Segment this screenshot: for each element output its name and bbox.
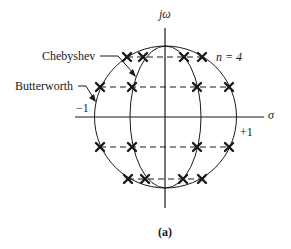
chebyshev-label: Chebyshev xyxy=(42,49,95,63)
jw-axis-label: jω xyxy=(157,7,171,21)
sigma-axis-label: σ xyxy=(268,108,275,122)
pole-location-diagram: jω σ −1 +1 n = 4 Chebyshev Butterworth (… xyxy=(0,0,291,249)
butterworth-label: Butterworth xyxy=(15,79,73,93)
neg-one-label: −1 xyxy=(76,101,89,115)
figure-caption: (a) xyxy=(158,225,172,239)
butterworth-arrowhead xyxy=(89,94,96,102)
order-label: n = 4 xyxy=(216,50,242,64)
pos-one-label: +1 xyxy=(240,125,253,139)
